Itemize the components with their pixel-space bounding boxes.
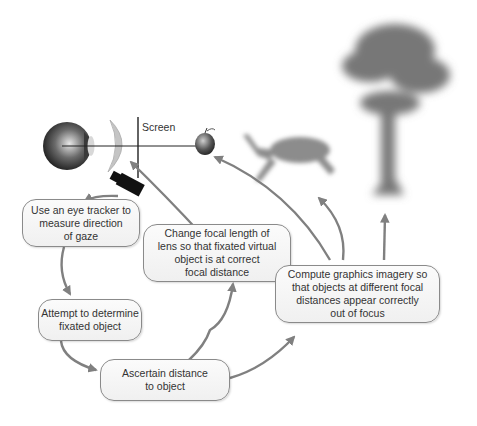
arrow-box1-to-box2 [62,247,70,294]
box-fixated-object: Attempt to determine fixated object [38,299,142,341]
eye-tracker-camera-illustration [109,169,145,196]
arrow-box5-to-deer [319,198,344,260]
deer-illustration [243,134,335,182]
screen-label: Screen [142,121,175,133]
apple-illustration [195,128,215,155]
arrow-box3-to-box5 [230,337,294,378]
box-ascertain-distance: Ascertain distance to object [100,359,230,401]
box-eye-tracker: Use an eye tracker to measure direction … [22,199,140,247]
arrow-box2-to-box3 [61,341,96,370]
arrow-box5-to-tree [384,215,385,260]
box-change-focal: Change focal length of lens so that fixa… [143,224,291,282]
box-compute-graphics: Compute graphics imagery so that objects… [275,265,440,323]
tree-illustration [342,24,450,195]
arrow-box3-to-box4 [189,284,233,360]
